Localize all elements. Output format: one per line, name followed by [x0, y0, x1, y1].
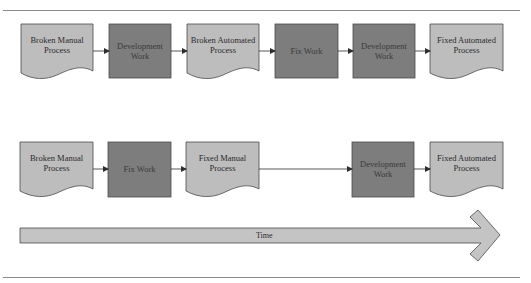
- label-development-work-row2: Development Work: [352, 146, 414, 192]
- label-development-work-2: Development Work: [353, 28, 415, 74]
- label-fix-work: Fix Work: [275, 28, 338, 74]
- label-broken-manual-process: Broken Manual Process: [21, 28, 93, 62]
- label-fixed-automated-process-row2: Fixed Automated Process: [430, 146, 503, 180]
- time-label: Time: [256, 231, 273, 240]
- label-broken-automated-process: Broken Automated Process: [187, 28, 259, 62]
- label-fixed-manual-process: Fixed Manual Process: [186, 146, 259, 180]
- label-development-work: Development Work: [109, 28, 171, 74]
- label-fix-work-row2: Fix Work: [108, 146, 171, 192]
- label-broken-manual-process-row2: Broken Manual Process: [20, 146, 93, 180]
- label-fixed-automated-process: Fixed Automated Process: [430, 28, 503, 62]
